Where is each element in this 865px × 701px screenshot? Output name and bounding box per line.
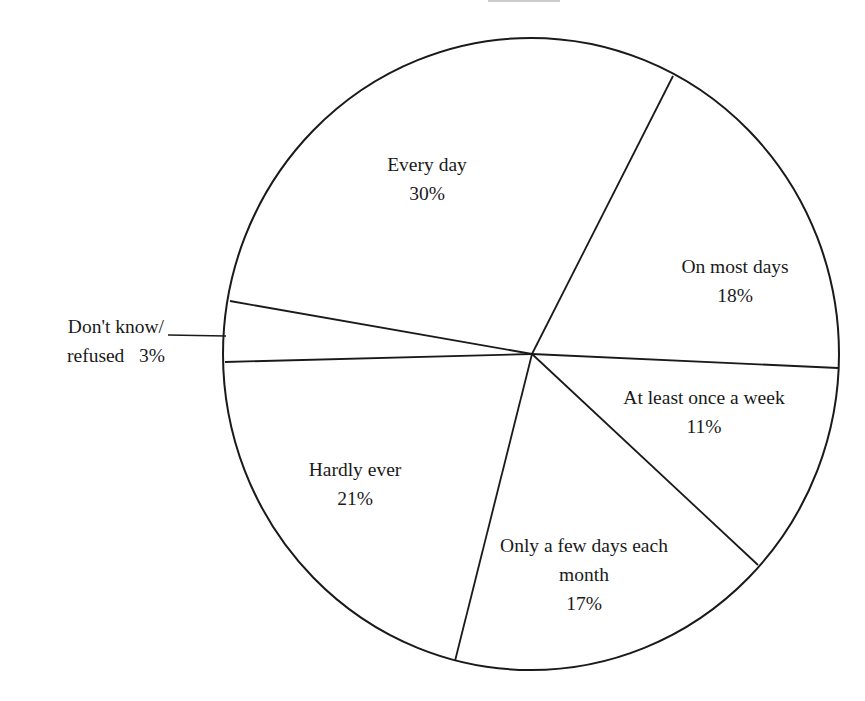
label-percent: 30% <box>362 179 492 208</box>
slice-label-dont-know-refused: Don't know/ refused 3% <box>0 312 172 370</box>
leader-line-dont-know <box>168 335 226 336</box>
label-text-2: month <box>474 560 694 589</box>
label-percent: 17% <box>474 589 694 618</box>
label-percent: 18% <box>660 281 810 310</box>
label-percent: 11% <box>584 412 824 441</box>
label-text: Hardly ever <box>280 455 430 484</box>
label-text: On most days <box>660 252 810 281</box>
slice-label-every-day: Every day 30% <box>362 150 492 208</box>
label-text: Only a few days each <box>474 531 694 560</box>
slice-label-only-a-few-days: Only a few days each month 17% <box>474 531 694 618</box>
label-text: Every day <box>362 150 492 179</box>
label-percent: 3% <box>139 345 165 366</box>
slice-label-on-most-days: On most days 18% <box>660 252 810 310</box>
label-percent: 21% <box>280 484 430 513</box>
label-refused: refused <box>67 345 124 366</box>
label-text: At least once a week <box>584 383 824 412</box>
label-text: Don't know/ <box>0 312 172 341</box>
slice-label-at-least-once-a-week: At least once a week 11% <box>584 383 824 441</box>
label-text-2: refused 3% <box>0 341 172 370</box>
slice-label-hardly-ever: Hardly ever 21% <box>280 455 430 513</box>
